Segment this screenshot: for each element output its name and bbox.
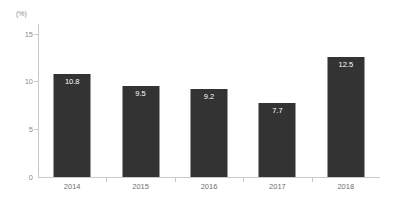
x-axis-line [38, 177, 380, 178]
y-axis-ticks: 051015 [0, 0, 33, 207]
bar: 10.8 [54, 74, 91, 177]
bar: 7.7 [259, 103, 296, 177]
bar-chart: (%) 051015 10.89.59.27.712.5 20142015201… [0, 0, 398, 207]
y-tick-label: 5 [29, 125, 33, 134]
y-tick-label: 10 [25, 77, 33, 86]
bar-value-label: 10.8 [54, 78, 91, 86]
bar-value-label: 12.5 [327, 61, 364, 69]
bar-group: 9.5 [106, 24, 174, 177]
bar-value-label: 7.7 [259, 107, 296, 115]
y-tickmark [34, 34, 38, 35]
bar-value-label: 9.5 [122, 90, 159, 98]
bar: 12.5 [327, 57, 364, 177]
x-axis-category-label: 2015 [132, 182, 149, 191]
x-axis-category-label: 2017 [269, 182, 286, 191]
x-axis-category-label: 2018 [337, 182, 354, 191]
bar-group: 12.5 [312, 24, 380, 177]
y-tick-label: 15 [25, 29, 33, 38]
y-tick-label: 0 [29, 173, 33, 182]
bar: 9.2 [190, 89, 227, 177]
x-axis-labels: 20142015201620172018 [38, 182, 380, 198]
bar-group: 9.2 [175, 24, 243, 177]
y-tickmark [34, 81, 38, 82]
x-axis-category-label: 2016 [201, 182, 218, 191]
x-axis-category-label: 2014 [64, 182, 81, 191]
bar-series: 10.89.59.27.712.5 [38, 24, 380, 177]
bar-group: 10.8 [38, 24, 106, 177]
bar-value-label: 9.2 [190, 93, 227, 101]
bar-group: 7.7 [243, 24, 311, 177]
bar: 9.5 [122, 86, 159, 177]
y-tickmark [34, 129, 38, 130]
